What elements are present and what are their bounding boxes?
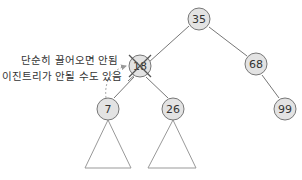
node-label: 26 <box>166 103 180 116</box>
node-label: 99 <box>278 103 292 116</box>
node-label: 35 <box>192 13 206 26</box>
subtree-triangle-26 <box>148 120 196 168</box>
annotation-line-1: 단순히 끌어오면 안됨 <box>14 52 118 67</box>
node-label: 68 <box>249 58 263 71</box>
annotation-line-2: 이진트리가 안될 수도 있음 <box>2 68 118 83</box>
subtree-triangle-7 <box>85 120 131 168</box>
bst-diagram: 35 18 68 7 26 99 <box>0 0 302 180</box>
node-label: 7 <box>105 103 112 116</box>
